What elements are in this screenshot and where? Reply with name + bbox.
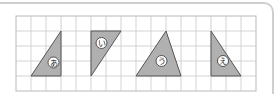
triangle-label: え <box>219 57 227 66</box>
triangle-label: い <box>98 39 106 48</box>
triangle-label: う <box>158 57 166 66</box>
triangle-label: あ <box>50 59 58 68</box>
triangle-grid-figure: あいうえ <box>0 0 276 94</box>
